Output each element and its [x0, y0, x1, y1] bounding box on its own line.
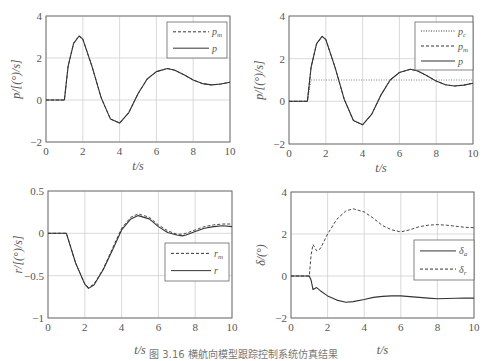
chart-panel-bottom-right: 0246810−2024t/sδ/(°)δaδr [254, 186, 480, 357]
x-tick-label: 4 [117, 145, 123, 157]
legend: pmp [167, 22, 227, 58]
chart-panel-top-left: 0246810−2024t/sp/[(°)/s]pmp [9, 10, 236, 173]
legend: δaδr [414, 240, 474, 280]
y-tick-label: −2 [30, 136, 42, 148]
x-tick-label: 8 [435, 321, 441, 333]
x-tick-label: 0 [288, 321, 294, 333]
x-tick-label: 4 [361, 321, 367, 333]
y-tick-label: 2 [37, 52, 43, 64]
x-tick-label: 4 [119, 321, 125, 333]
figure-caption: 图 3.16 横航向模型跟踪控制系统仿真结果 [0, 346, 487, 361]
y-axis-label: p/[(°)/s] [9, 59, 23, 100]
x-axis-label: t/s [132, 159, 144, 173]
x-tick-label: 2 [82, 321, 88, 333]
x-tick-label: 10 [469, 321, 481, 333]
x-tick-label: 6 [156, 321, 162, 333]
x-tick-label: 8 [433, 147, 439, 159]
x-tick-label: 6 [154, 145, 160, 157]
legend-label: p [457, 56, 463, 67]
y-tick-label: 2 [282, 228, 288, 240]
y-axis-label: p/[(°)/s] [252, 60, 266, 101]
x-tick-label: 8 [192, 321, 198, 333]
x-tick-label: 4 [360, 147, 366, 159]
y-tick-label: 0 [39, 227, 45, 239]
x-tick-label: 6 [398, 321, 404, 333]
y-tick-label: −1 [32, 312, 44, 324]
y-tick-label: 4 [37, 10, 43, 22]
chart-panel-bottom-left: 0246810−1−0.500.5t/sr/[(°)/s]rmr [11, 185, 238, 357]
y-tick-label: 4 [280, 10, 286, 22]
x-tick-label: 2 [325, 321, 331, 333]
x-tick-label: 10 [468, 147, 480, 159]
legend-label: p [211, 43, 217, 54]
x-tick-label: 8 [190, 145, 196, 157]
x-tick-label: 10 [225, 145, 237, 157]
y-axis-label: δ/(°) [254, 244, 268, 266]
legend-label: r [214, 265, 218, 276]
x-tick-label: 2 [80, 145, 86, 157]
x-tick-label: 10 [227, 321, 239, 333]
y-tick-label: 2 [280, 53, 286, 65]
y-tick-label: 0 [282, 270, 288, 282]
x-tick-label: 0 [43, 145, 49, 157]
x-tick-label: 0 [45, 321, 51, 333]
legend: pcpmp [415, 22, 473, 70]
y-tick-label: −2 [273, 138, 285, 150]
y-tick-label: −2 [275, 312, 287, 324]
x-axis-label: t/s [375, 161, 387, 175]
legend: rmr [165, 243, 229, 281]
chart-panel-top-right: 0246810−2024t/sp/[(°)/s]pcpmp [252, 10, 479, 175]
x-tick-label: 2 [323, 147, 329, 159]
y-tick-label: 4 [282, 186, 288, 198]
x-tick-label: 6 [397, 147, 403, 159]
y-axis-label: r/[(°)/s] [11, 235, 25, 273]
series-line-p_c [289, 80, 473, 101]
y-tick-label: 0 [280, 95, 286, 107]
figure-canvas: 0246810−2024t/sp/[(°)/s]pmp0246810−2024t… [0, 0, 487, 361]
y-tick-label: 0 [37, 94, 43, 106]
y-tick-label: 0.5 [30, 185, 44, 197]
x-tick-label: 0 [286, 147, 292, 159]
y-tick-label: −0.5 [24, 270, 44, 282]
